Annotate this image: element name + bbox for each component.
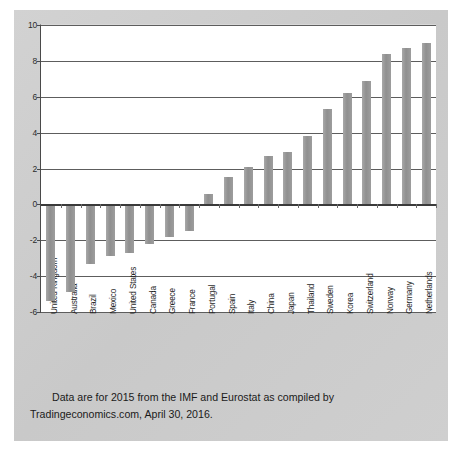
bar-slot (244, 25, 253, 312)
x-tickmark (61, 204, 62, 208)
x-label-slot: Brazil (80, 314, 100, 390)
bar (125, 204, 134, 252)
y-axis-tick-label: 4 (32, 128, 37, 138)
x-tickmark (120, 204, 121, 208)
bar (46, 204, 55, 301)
x-label-slot: Italy (238, 314, 258, 390)
y-axis-tick-label: 0 (32, 199, 37, 209)
y-axis-tick-label: 10 (28, 20, 37, 30)
bar (303, 136, 312, 204)
bar-slot (66, 25, 75, 312)
bar (145, 204, 154, 243)
bar (204, 194, 213, 205)
x-label-slot: Canada (139, 314, 159, 390)
bar-slot (106, 25, 115, 312)
bar (264, 156, 273, 204)
bar (343, 93, 352, 204)
bar-slot (185, 25, 194, 312)
y-axis-tick-label: -2 (30, 235, 37, 245)
bar (185, 204, 194, 231)
x-label-slot: Sweden (317, 314, 337, 390)
bar (66, 204, 75, 292)
bar-slot (303, 25, 312, 312)
x-tickmark (397, 204, 398, 208)
x-label-slot: Switzerland (356, 314, 376, 390)
x-label-slot: United States (119, 314, 139, 390)
bar-slot (283, 25, 292, 312)
bar-slot (86, 25, 95, 312)
bar-slot (125, 25, 134, 312)
bar-slot (46, 25, 55, 312)
x-tickmark (199, 204, 200, 208)
x-tickmark (179, 204, 180, 208)
x-tickmark (337, 204, 338, 208)
bar (86, 204, 95, 263)
x-tickmark (81, 204, 82, 208)
gridline--6 (41, 312, 436, 313)
y-axis-tick-label: 6 (32, 92, 37, 102)
x-tickmark (318, 204, 319, 208)
x-label-slot: Netherlands (415, 314, 435, 390)
bar-slot (402, 25, 411, 312)
bar (382, 54, 391, 205)
x-label-slot: Portugal (198, 314, 218, 390)
bars-group (41, 25, 436, 312)
bar-slot (264, 25, 273, 312)
bar-slot (382, 25, 391, 312)
x-label-slot: Korea (336, 314, 356, 390)
x-label-slot: Japan (277, 314, 297, 390)
caption-line-1: Data are for 2015 from the IMF and Euros… (30, 391, 334, 403)
y-axis-tick-label: -4 (30, 271, 37, 281)
bar (283, 152, 292, 204)
x-label-slot: United Kingdom (40, 314, 60, 390)
bar (402, 48, 411, 204)
bar-slot (343, 25, 352, 312)
bar-slot (165, 25, 174, 312)
x-label-slot: China (257, 314, 277, 390)
x-label-slot: Germany (396, 314, 416, 390)
bar-slot (323, 25, 332, 312)
caption-line-2: Tradingeconomics.com, April 30, 2016. (30, 408, 213, 420)
y-tickmark--6 (37, 312, 41, 313)
x-tickmark (258, 204, 259, 208)
chart-page: -6-4-20246810 United KingdomAustraliaBra… (0, 0, 462, 451)
x-tickmark (298, 204, 299, 208)
x-label-slot: Spain (218, 314, 238, 390)
bar-slot (145, 25, 154, 312)
x-axis-labels: United KingdomAustraliaBrazilMexicoUnite… (40, 314, 436, 390)
x-label-slot: Mexico (99, 314, 119, 390)
x-tickmark (377, 204, 378, 208)
x-tickmark (100, 204, 101, 208)
x-label-slot: Australia (60, 314, 80, 390)
bar-slot (204, 25, 213, 312)
x-tickmark (357, 204, 358, 208)
bar (323, 109, 332, 204)
x-tickmark (416, 204, 417, 208)
x-label-slot: France (178, 314, 198, 390)
y-axis-tick-label: 2 (32, 164, 37, 174)
x-tickmark (239, 204, 240, 208)
bar (224, 177, 233, 204)
x-label-slot: Thailand (297, 314, 317, 390)
x-tickmark (436, 204, 437, 208)
bar (244, 167, 253, 205)
bar (165, 204, 174, 236)
bar (106, 204, 115, 256)
x-tickmark (278, 204, 279, 208)
figure-caption: Data are for 2015 from the IMF and Euros… (30, 389, 434, 423)
x-label-slot: Greece (159, 314, 179, 390)
y-axis-tick-label: -6 (30, 307, 37, 317)
bar (362, 81, 371, 205)
x-tickmark (219, 204, 220, 208)
x-label-slot: Norway (376, 314, 396, 390)
x-tickmark (160, 204, 161, 208)
bar (422, 43, 431, 204)
y-axis-tick-label: 8 (32, 56, 37, 66)
bar-slot (422, 25, 431, 312)
bar-slot (362, 25, 371, 312)
plot-area: -6-4-20246810 (40, 24, 436, 312)
x-tickmark (140, 204, 141, 208)
bar-slot (224, 25, 233, 312)
